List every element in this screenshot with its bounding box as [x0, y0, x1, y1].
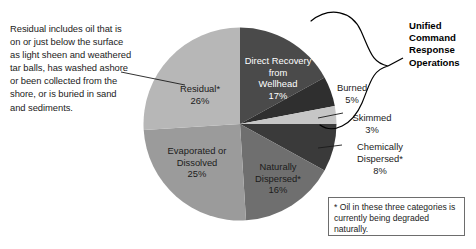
footnote-box: * Oil in these three categories is curre… — [328, 197, 465, 236]
callout-label-skimmed: Skimmed 3% — [345, 112, 399, 136]
callout-chemical-line1: Chemically — [344, 141, 416, 153]
slice-label-direct-recovery: Direct Recovery from Wellhead 17% — [231, 55, 325, 101]
pie-slice — [143, 28, 240, 131]
slice-label-direct-recovery-line2: from — [231, 67, 325, 79]
callout-burned-value: 5% — [327, 94, 377, 106]
slice-label-direct-recovery-line1: Direct Recovery — [231, 55, 325, 67]
callout-chemical-line2: Dispersed* — [344, 153, 416, 165]
footnote-text: * Oil in these three categories is curre… — [334, 202, 459, 236]
residual-description-text: Residual includes oil that is on or just… — [10, 22, 132, 114]
slice-label-naturally-dispersed-value: 16% — [231, 184, 325, 196]
slice-label-naturally-dispersed-line1: Naturally — [231, 161, 325, 173]
pie-chart: Residual* 26% Direct Recovery from Wellh… — [143, 27, 337, 221]
callout-label-chemically-dispersed: Chemically Dispersed* 8% — [344, 141, 416, 176]
callout-burned-name: Burned — [327, 82, 377, 94]
slice-label-evaporated-line1: Evaporated or — [149, 145, 245, 157]
callout-label-burned: Burned 5% — [327, 82, 377, 106]
callout-skimmed-value: 3% — [345, 124, 399, 136]
callout-skimmed-name: Skimmed — [345, 112, 399, 124]
slice-label-naturally-dispersed: Naturally Dispersed* 16% — [231, 161, 325, 196]
chart-page: Residual includes oil that is on or just… — [0, 0, 476, 249]
slice-label-naturally-dispersed-line2: Dispersed* — [231, 173, 325, 185]
callout-chemical-value: 8% — [344, 165, 416, 177]
slice-label-direct-recovery-value: 17% — [231, 90, 325, 102]
unified-command-heading: Unified Command Response Operations — [409, 20, 475, 69]
slice-label-direct-recovery-line3: Wellhead — [231, 78, 325, 90]
brace-pointer — [388, 58, 403, 66]
